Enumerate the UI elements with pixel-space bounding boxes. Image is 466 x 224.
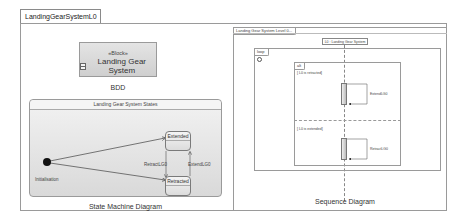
self-messages xyxy=(0,0,466,224)
message-retract: RetractLG0 xyxy=(370,147,388,151)
message-extend: ExtendLG0 xyxy=(370,92,388,96)
sequence-caption: Sequence Diagram xyxy=(290,198,400,205)
